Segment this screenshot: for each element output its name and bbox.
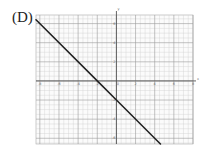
svg-text:-4: -4 [112, 117, 115, 121]
coordinate-plane: xy -8-6-4-202468-6-4-2246 [0, 0, 203, 155]
svg-text:6: 6 [113, 22, 115, 26]
svg-text:-4: -4 [76, 82, 79, 86]
svg-text:-6: -6 [57, 82, 60, 86]
svg-text:-8: -8 [38, 82, 41, 86]
svg-text:-6: -6 [112, 136, 115, 140]
svg-text:6: 6 [173, 82, 175, 86]
svg-text:4: 4 [113, 41, 115, 45]
minor-grid [36, 15, 193, 144]
svg-text:2: 2 [113, 60, 115, 64]
svg-text:4: 4 [154, 82, 156, 86]
svg-text:x: x [197, 77, 199, 81]
svg-text:0: 0 [117, 82, 119, 86]
svg-text:y: y [117, 7, 119, 11]
svg-text:8: 8 [192, 82, 194, 86]
svg-text:2: 2 [134, 82, 136, 86]
